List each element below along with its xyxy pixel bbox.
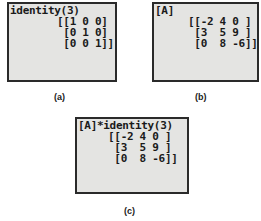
matrix-row-3: [0 0 1]] — [57, 38, 114, 49]
caption-a: (a) — [54, 92, 65, 102]
caption-b: (b) — [195, 92, 207, 102]
command-line: [A] — [155, 5, 174, 16]
matrix-row-3: [0 8 -6]] — [188, 38, 258, 49]
caption-c: (c) — [124, 206, 135, 216]
calculator-screen-c: [A]*identity(3) [[-2 4 0 ] [3 5 9 ] [0 8… — [75, 117, 189, 194]
calculator-screen-b: [A] [[-2 4 0 ] [3 5 9 ] [0 8 -6]] — [152, 2, 259, 82]
matrix-row-3: [0 8 -6]] — [108, 153, 178, 164]
calculator-screen-a: identity(3) [[1 0 0] [0 1 0] [0 0 1]] — [7, 2, 117, 82]
